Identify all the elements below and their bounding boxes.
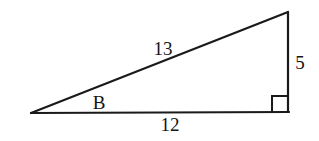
hypotenuse-label: 13: [154, 38, 173, 59]
triangle-diagram-svg: 13 5 B 12: [0, 0, 319, 141]
hypotenuse-line: [31, 12, 288, 113]
base-line: [31, 112, 289, 113]
vertical-side-label: 5: [295, 52, 305, 73]
base-label: 12: [161, 114, 180, 135]
right-angle-marker: [272, 96, 288, 112]
right-triangle-figure: 13 5 B 12: [0, 0, 319, 141]
angle-b-label: B: [93, 92, 106, 113]
